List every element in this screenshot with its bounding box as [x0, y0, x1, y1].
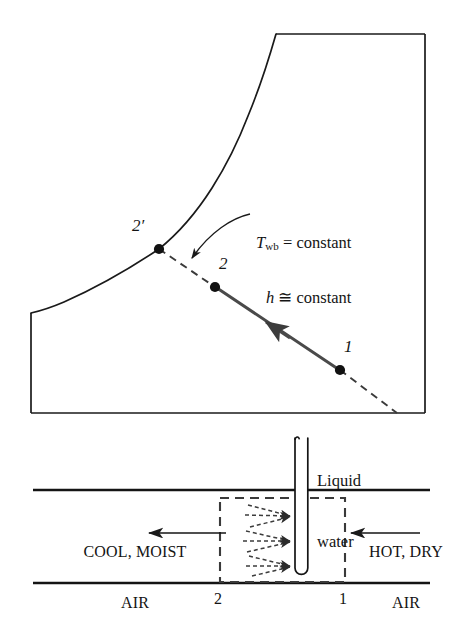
outlet-stream-line-2: AIR — [60, 594, 210, 611]
state-point-1 — [335, 365, 345, 375]
constant-wet-bulb-annotation: Twb = constant h ≅ constant — [256, 198, 351, 342]
annotation-symbol-h: h — [266, 288, 274, 307]
process-line-dashed-upper — [159, 249, 215, 287]
process-line-dashed-lower — [340, 370, 397, 413]
annotation-line-2: h ≅ constant — [256, 289, 351, 307]
state-label-2: 2 — [219, 255, 228, 273]
inlet-stream-line-1: HOT, DRY — [352, 543, 460, 560]
annotation-line-1-suffix: = constant — [279, 233, 352, 252]
annotation-line-1: Twb = constant — [256, 234, 351, 253]
annotation-leader-arrow — [192, 214, 250, 258]
liquid-water-line-1: Liquid — [317, 471, 361, 491]
evaporation-arrows — [243, 505, 290, 576]
liquid-water-tube — [295, 438, 308, 574]
inlet-stream-label: HOT, DRY AIR — [352, 508, 460, 632]
outlet-stream-label: COOL, MOIST AIR — [60, 508, 210, 632]
duct-station-2-label: 2 — [214, 590, 222, 607]
state-label-2prime: 2′ — [132, 217, 144, 235]
saturation-curve — [31, 34, 276, 313]
psychrometric-wet-bulb-figure: 2′ 2 1 Twb = constant h ≅ constant Liqui… — [0, 0, 466, 632]
state-point-2 — [210, 282, 220, 292]
annotation-subscript-wb: wb — [265, 240, 279, 252]
inlet-stream-line-2: AIR — [352, 594, 460, 611]
duct-station-1-label: 1 — [339, 590, 347, 607]
annotation-symbol-T: T — [256, 233, 265, 252]
state-point-2prime — [154, 244, 164, 254]
outlet-stream-line-1: COOL, MOIST — [60, 543, 210, 560]
annotation-line-2-suffix: ≅ constant — [274, 288, 351, 307]
